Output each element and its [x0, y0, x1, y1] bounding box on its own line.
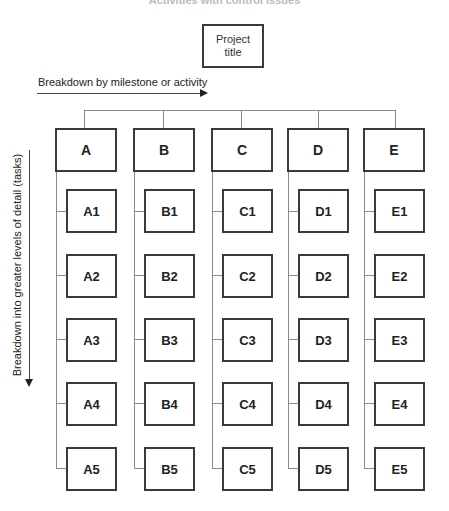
task-box-e3: E3 — [374, 318, 425, 362]
task-box-d5: D5 — [298, 447, 349, 491]
task-box-b5: B5 — [144, 447, 195, 491]
milestone-box-c: C — [211, 128, 273, 172]
task-box-d4: D4 — [298, 382, 349, 426]
task-box-a4: A4 — [66, 382, 117, 426]
horizontal-axis-label: Breakdown by milestone or activity — [38, 76, 207, 88]
task-box-d1: D1 — [298, 189, 349, 233]
task-box-c2: C2 — [222, 254, 273, 298]
task-box-c4: C4 — [222, 382, 273, 426]
trunk-b — [134, 172, 135, 469]
task-box-a3: A3 — [66, 318, 117, 362]
milestone-box-d: D — [287, 128, 349, 172]
task-box-a2: A2 — [66, 254, 117, 298]
connector-d — [318, 110, 319, 128]
horizontal-arrow-line — [37, 93, 201, 94]
connector-a — [84, 110, 85, 128]
task-box-b3: B3 — [144, 318, 195, 362]
connector-b — [163, 110, 164, 128]
task-box-a1: A1 — [66, 189, 117, 233]
project-title-box: Project title — [202, 24, 264, 68]
top-caption-partial: Activities with control issues — [0, 0, 449, 6]
project-title-line1: Project — [216, 33, 250, 46]
horizontal-arrowhead-icon — [200, 89, 208, 97]
milestone-box-b: B — [133, 128, 195, 172]
task-box-c3: C3 — [222, 318, 273, 362]
connector-c — [241, 110, 242, 128]
task-box-d2: D2 — [298, 254, 349, 298]
task-box-b2: B2 — [144, 254, 195, 298]
task-box-e5: E5 — [374, 447, 425, 491]
project-title-line2: title — [216, 46, 250, 59]
task-box-b1: B1 — [144, 189, 195, 233]
vertical-axis-label: Breakdown into greater levels of detail … — [11, 147, 23, 383]
trunk-a — [56, 172, 57, 469]
trunk-e — [364, 172, 365, 469]
task-box-e2: E2 — [374, 254, 425, 298]
task-box-e1: E1 — [374, 189, 425, 233]
task-box-b4: B4 — [144, 382, 195, 426]
task-box-c1: C1 — [222, 189, 273, 233]
milestone-bus-line — [84, 110, 396, 111]
milestone-box-e: E — [363, 128, 425, 172]
milestone-box-a: A — [55, 128, 117, 172]
trunk-d — [288, 172, 289, 469]
vertical-arrow-line — [29, 150, 30, 380]
task-box-d3: D3 — [298, 318, 349, 362]
connector-e — [395, 110, 396, 128]
task-box-e4: E4 — [374, 382, 425, 426]
task-box-c5: C5 — [222, 447, 273, 491]
trunk-c — [212, 172, 213, 469]
vertical-arrowhead-icon — [25, 379, 33, 387]
task-box-a5: A5 — [66, 447, 117, 491]
